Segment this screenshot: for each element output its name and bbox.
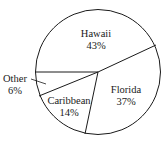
label-hawaii-pct: 43%	[86, 40, 106, 51]
label-caribbean-pct: 14%	[59, 107, 79, 118]
label-other-pct: 6%	[8, 85, 22, 96]
label-caribbean-name: Caribbean	[47, 95, 91, 106]
label-hawaii-name: Hawaii	[81, 28, 111, 39]
label-florida-pct: 37%	[116, 96, 136, 107]
label-florida-name: Florida	[111, 84, 142, 95]
pie-chart: Hawaii 43% Florida 37% Caribbean 14% Oth…	[0, 0, 164, 147]
label-other-name: Other	[3, 73, 27, 84]
